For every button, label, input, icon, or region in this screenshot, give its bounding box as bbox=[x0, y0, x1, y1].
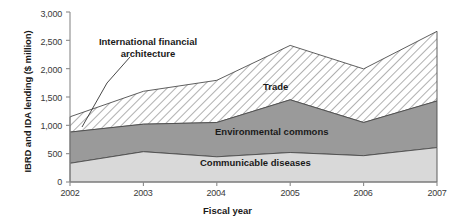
annotation-communicable-diseases: Communicable diseases bbox=[200, 157, 311, 169]
annotation-trade: Trade bbox=[263, 81, 288, 93]
ifa-label-line1: International financial bbox=[68, 36, 228, 48]
annotation-international-financial-architecture: International financial architecture bbox=[68, 36, 228, 60]
plot-area bbox=[0, 0, 455, 224]
annotation-environmental-commons: Environmental commons bbox=[215, 126, 329, 138]
area-chart: IBRD and IDA lending ($ million) 3,000 2… bbox=[0, 0, 455, 224]
ifa-label-line2: architecture bbox=[68, 48, 228, 60]
